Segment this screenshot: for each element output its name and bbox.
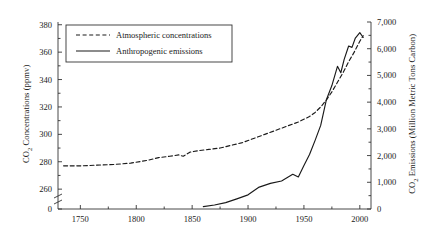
left-axis-ticklabel-zero: 0 bbox=[48, 204, 52, 214]
right-axis-ticklabel: 6,000 bbox=[377, 44, 396, 54]
left-axis-ticklabel: 300 bbox=[39, 129, 52, 139]
left-axis-ticklabel: 360 bbox=[39, 47, 52, 57]
x-axis-ticklabel: 1800 bbox=[128, 214, 145, 224]
left-axis-ticklabel: 380 bbox=[39, 20, 52, 30]
left-axis-ticklabel: 280 bbox=[39, 157, 52, 167]
x-axis-ticklabel: 1950 bbox=[295, 214, 312, 224]
x-axis-ticklabel: 2000 bbox=[351, 214, 368, 224]
right-axis-ticklabel: 3,000 bbox=[377, 124, 396, 134]
left-axis-ticklabel: 260 bbox=[39, 184, 52, 194]
right-axis-ticklabel: 2,000 bbox=[377, 151, 396, 161]
right-axis-ticklabel: 5,000 bbox=[377, 70, 396, 80]
legend-label-concentrations: Atmospheric concentrations bbox=[116, 30, 212, 40]
left-axis-ticklabel: 340 bbox=[39, 75, 52, 85]
plot-area: 260280300320340360380001,0002,0003,0004,… bbox=[0, 0, 432, 241]
right-axis-ticklabel: 0 bbox=[377, 204, 381, 214]
x-axis-ticklabel: 1850 bbox=[184, 214, 201, 224]
x-axis-ticklabel: 1900 bbox=[240, 214, 257, 224]
right-axis-ticklabel: 1,000 bbox=[377, 177, 396, 187]
x-axis-ticklabel: 1750 bbox=[72, 214, 89, 224]
right-axis-ticklabel: 4,000 bbox=[377, 97, 396, 107]
right-axis-ticklabel: 7,000 bbox=[377, 17, 396, 27]
co2-chart-figure: CO2 Concentrations (ppmv) CO2 Emissions … bbox=[0, 0, 432, 241]
left-axis-ticklabel: 320 bbox=[39, 102, 52, 112]
legend-label-emissions: Anthropogenic emissions bbox=[116, 46, 203, 56]
